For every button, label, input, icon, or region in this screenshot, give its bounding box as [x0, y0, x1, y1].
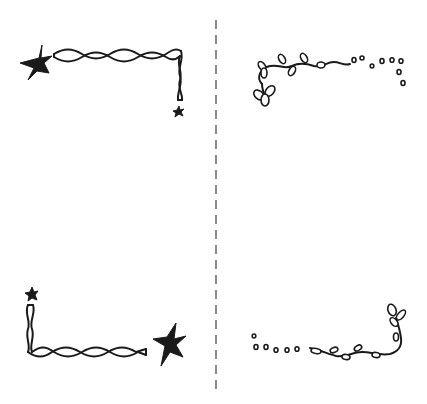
large-star-icon — [20, 45, 52, 80]
dot-trail — [252, 334, 299, 352]
top-right-corner-vine — [252, 52, 405, 106]
large-star-icon — [153, 323, 186, 366]
small-star-icon — [173, 106, 184, 117]
small-star-icon — [25, 287, 38, 301]
top-left-corner-rope — [20, 45, 184, 117]
bottom-right-corner-vine — [252, 303, 407, 360]
bottom-left-corner-rope — [25, 287, 186, 366]
illustration-canvas — [0, 0, 427, 404]
dot-trail — [352, 56, 405, 86]
